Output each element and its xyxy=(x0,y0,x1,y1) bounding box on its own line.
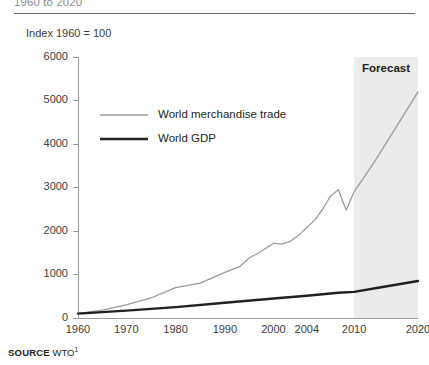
forecast-band-group: Forecast xyxy=(354,57,418,318)
x-tick-label: 1960 xyxy=(66,323,90,335)
figure-root: 1960 to 2020 Index 1960 = 100 Forecast 0… xyxy=(0,0,429,365)
x-axis-ticks: 19601970198019902000200420102020 xyxy=(66,323,429,335)
source-note: SOURCE WTO1 xyxy=(8,344,78,359)
x-tick-label: 2020 xyxy=(406,323,429,335)
forecast-shaded-band xyxy=(354,57,418,318)
chart-legend: World merchandise tradeWorld GDP xyxy=(100,108,286,144)
y-tick-label: 4000 xyxy=(44,137,68,149)
legend-label-gdp: World GDP xyxy=(158,132,216,144)
y-tick-label: 0 xyxy=(62,311,68,323)
x-tick-label: 2000 xyxy=(261,323,285,335)
source-value: WTO xyxy=(53,347,75,358)
y-tick-label: 5000 xyxy=(44,93,68,105)
y-tick-label: 3000 xyxy=(44,180,68,192)
y-tick-label: 2000 xyxy=(44,224,68,236)
y-tick-label: 6000 xyxy=(44,50,68,62)
x-tick-label: 1990 xyxy=(213,323,237,335)
x-tick-label: 1980 xyxy=(163,323,187,335)
forecast-band-label: Forecast xyxy=(362,62,410,74)
y-tick-label: 1000 xyxy=(44,267,68,279)
source-keyword: SOURCE xyxy=(8,347,50,358)
y-axis-ticks: 0100020003000400050006000 xyxy=(44,50,78,323)
x-tick-label: 1970 xyxy=(114,323,138,335)
x-tick-label: 2010 xyxy=(342,323,366,335)
line-chart-svg: Forecast 0100020003000400050006000 19601… xyxy=(0,0,429,345)
legend-label-trade: World merchandise trade xyxy=(158,108,286,120)
source-footnote-marker: 1 xyxy=(75,346,79,353)
chart-plot-area: Forecast 0100020003000400050006000 19601… xyxy=(0,0,429,345)
x-tick-label: 2004 xyxy=(295,323,319,335)
